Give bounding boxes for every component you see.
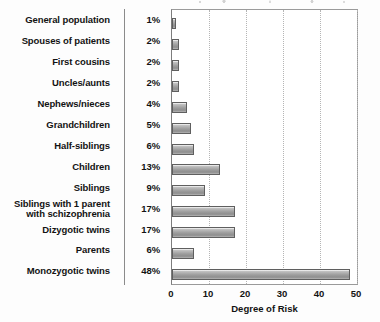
category-label: Siblings with 1 parent with schizophreni… xyxy=(0,198,118,219)
gridline-40 xyxy=(320,10,321,284)
value-label: 17% xyxy=(128,198,164,219)
bar xyxy=(172,123,191,134)
value-label-column: 1%2%2%2%4%5%6%13%9%17%17%6%48% xyxy=(128,10,164,282)
bar xyxy=(172,81,179,92)
category-label: Monozygotic twins xyxy=(0,261,118,282)
bar xyxy=(172,269,350,280)
scan-artifact-strip xyxy=(180,0,380,3)
value-label: 2% xyxy=(128,31,164,52)
category-label: Uncles/aunts xyxy=(0,73,118,94)
category-label: Siblings xyxy=(0,177,118,198)
gridline-20 xyxy=(246,10,247,284)
plot-area xyxy=(171,9,358,285)
value-label: 13% xyxy=(128,156,164,177)
value-label: 2% xyxy=(128,73,164,94)
value-label: 1% xyxy=(128,10,164,31)
bar xyxy=(172,18,176,29)
category-label: Spouses of patients xyxy=(0,31,118,52)
label-value-divider xyxy=(124,9,125,285)
bar xyxy=(172,164,220,175)
category-label-column: General populationSpouses of patientsFir… xyxy=(0,10,118,282)
bar xyxy=(172,102,187,113)
x-tick-label-0: 0 xyxy=(168,288,173,299)
x-tick-label-10: 10 xyxy=(203,288,214,299)
category-label: First cousins xyxy=(0,52,118,73)
value-label: 2% xyxy=(128,52,164,73)
value-label: 17% xyxy=(128,219,164,240)
x-tick-label-30: 30 xyxy=(277,288,288,299)
bar xyxy=(172,39,179,50)
bar xyxy=(172,60,179,71)
x-axis-tick-labels: 01020304050 xyxy=(171,288,358,301)
category-label: Dizygotic twins xyxy=(0,219,118,240)
category-label: Parents xyxy=(0,240,118,261)
value-label: 48% xyxy=(128,261,164,282)
x-tick-label-20: 20 xyxy=(240,288,251,299)
category-label: Nephews/nieces xyxy=(0,94,118,115)
x-tick-label-50: 50 xyxy=(351,288,362,299)
value-label: 6% xyxy=(128,240,164,261)
gridline-10 xyxy=(209,10,210,284)
value-label: 6% xyxy=(128,136,164,157)
value-label: 4% xyxy=(128,94,164,115)
bar xyxy=(172,144,194,155)
bar xyxy=(172,227,235,238)
category-label: Grandchildren xyxy=(0,115,118,136)
bar xyxy=(172,248,194,259)
gridline-50 xyxy=(357,10,358,284)
bar xyxy=(172,206,235,217)
gridline-30 xyxy=(283,10,284,284)
chart-screenshot: General populationSpouses of patientsFir… xyxy=(0,0,380,322)
value-label: 5% xyxy=(128,115,164,136)
bar xyxy=(172,185,205,196)
category-label: General population xyxy=(0,10,118,31)
value-label: 9% xyxy=(128,177,164,198)
x-tick-label-40: 40 xyxy=(314,288,325,299)
x-axis-title: Degree of Risk xyxy=(171,303,358,314)
category-label: Half-siblings xyxy=(0,136,118,157)
category-label: Children xyxy=(0,156,118,177)
